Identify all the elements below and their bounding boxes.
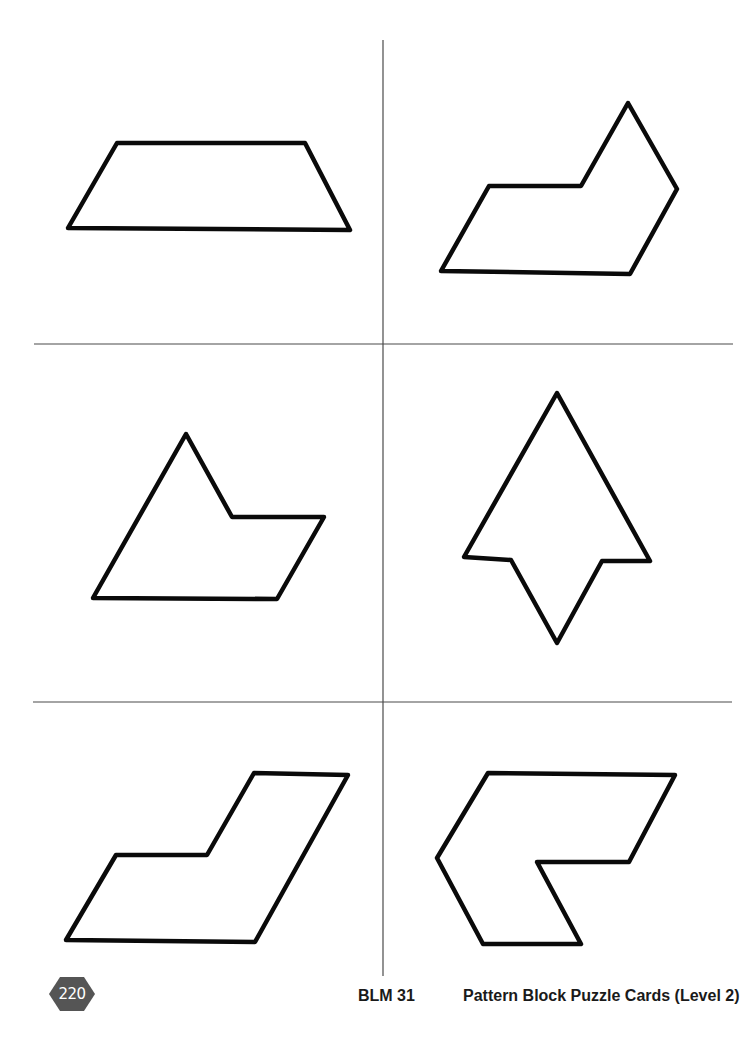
puzzle-card-sheet (0, 0, 740, 1048)
puzzle-shape-triangle-rhombus (93, 434, 324, 599)
puzzle-shape-step (66, 773, 348, 942)
page-number: 220 (49, 977, 95, 1011)
blm-label: BLM 31 (358, 987, 415, 1005)
footer-title: Pattern Block Puzzle Cards (Level 2) (463, 987, 740, 1005)
page-number-badge: 220 (49, 977, 95, 1011)
puzzle-shape-chevron (437, 773, 675, 944)
puzzle-shape-trapezoid (68, 143, 350, 230)
puzzle-shape-rhombus-triangle (441, 103, 677, 274)
puzzle-shape-arrow (464, 393, 650, 643)
